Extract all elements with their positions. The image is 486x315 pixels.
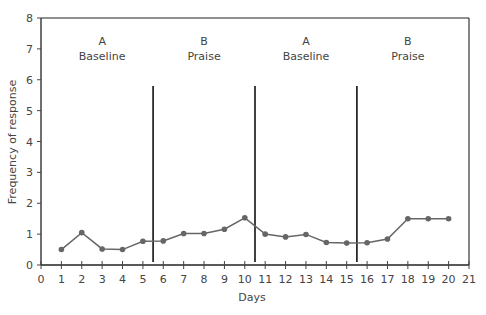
x-tick-label: 9 [221,273,228,286]
data-point-marker [99,246,105,252]
data-point-marker [120,247,126,253]
x-tick-label: 19 [421,273,435,286]
data-point-marker [324,240,330,246]
x-tick-label: 13 [299,273,313,286]
data-point-marker [283,234,289,240]
y-tick-label: 3 [26,166,33,179]
phase-label: Praise [187,50,220,63]
x-tick-label: 18 [401,273,415,286]
x-tick-label: 3 [99,273,106,286]
phase-letter: A [302,35,310,48]
x-tick-label: 11 [258,273,272,286]
phase-label: Baseline [283,50,330,63]
x-tick-label: 16 [360,273,374,286]
x-tick-label: 1 [58,273,65,286]
phase-letter: B [404,35,412,48]
y-tick-label: 7 [26,43,33,56]
y-tick-label: 0 [26,259,33,272]
data-point-marker [262,231,268,237]
data-point-marker [160,238,166,244]
data-point-marker [303,232,309,238]
phase-labels: ABaselineBPraiseABaselineBPraise [79,35,425,63]
x-axis-label: Days [238,291,266,304]
data-point-marker [364,240,370,246]
phase-letter: B [200,35,208,48]
data-point-marker [222,226,228,232]
data-point-marker [425,216,431,222]
x-tick-label: 7 [180,273,187,286]
x-tick-label: 21 [462,273,476,286]
data-point-marker [446,216,452,222]
data-point-marker [79,230,85,236]
line-chart: 0123456780123456789101112131415161718192… [0,0,486,315]
data-point-marker [201,231,207,237]
data-point-marker [59,247,65,253]
x-tick-label: 12 [279,273,293,286]
data-point-marker [385,236,391,242]
y-tick-label: 6 [26,74,33,87]
x-tick-label: 20 [442,273,456,286]
y-tick-label: 1 [26,228,33,241]
y-tick-label: 5 [26,105,33,118]
x-tick-label: 2 [78,273,85,286]
data-point-marker [140,238,146,244]
y-tick-label: 8 [26,12,33,25]
x-tick-label: 14 [319,273,333,286]
x-tick-label: 5 [139,273,146,286]
x-tick-label: 15 [340,273,354,286]
y-axis-label: Frequency of response [6,80,19,205]
x-tick-label: 4 [119,273,126,286]
x-tick-label: 10 [238,273,252,286]
data-point-marker [181,231,187,237]
y-tick-label: 2 [26,197,33,210]
x-tick-label: 0 [38,273,45,286]
y-tick-label: 4 [26,136,33,149]
data-point-marker [242,215,248,221]
data-point-marker [344,240,350,246]
x-tick-label: 17 [380,273,394,286]
x-tick-label: 8 [201,273,208,286]
data-point-marker [405,216,411,222]
phase-letter: A [98,35,106,48]
x-tick-label: 6 [160,273,167,286]
phase-label: Baseline [79,50,126,63]
phase-label: Praise [391,50,424,63]
